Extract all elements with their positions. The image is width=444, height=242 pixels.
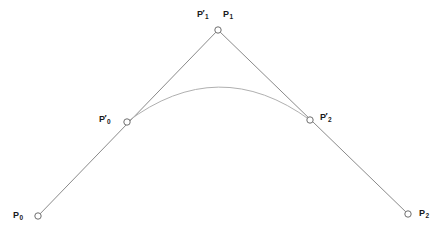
point-label-p0-prime: P′0 [99, 115, 111, 124]
point-label-p2-prime: P′2 [320, 113, 332, 122]
label-subscript-p2: 2 [425, 212, 429, 219]
label-subscript-p0: 0 [19, 214, 23, 221]
bezier-diagram: P0P′0P′1P1P′2P2 [0, 0, 444, 242]
point-label-p2: P2 [419, 209, 429, 218]
point-label-p0: P0 [13, 211, 23, 220]
label-subscript-p1: 1 [229, 13, 233, 20]
point-marker-p0-prime[interactable] [124, 119, 130, 125]
label-subscript-p0-prime: 0 [107, 118, 111, 125]
control-polygon-path [38, 30, 408, 216]
diagram-canvas [0, 0, 444, 242]
point-marker-p2[interactable] [405, 211, 411, 217]
point-marker-layer [35, 27, 411, 219]
point-marker-p1-prime[interactable] [215, 27, 221, 33]
point-label-p1-prime: P′1 [197, 10, 209, 19]
point-marker-p2-prime[interactable] [307, 117, 313, 123]
label-subscript-p1-prime: 1 [205, 13, 209, 20]
label-subscript-p2-prime: 2 [328, 116, 332, 123]
point-label-p1: P1 [223, 10, 233, 19]
point-marker-p0[interactable] [35, 213, 41, 219]
